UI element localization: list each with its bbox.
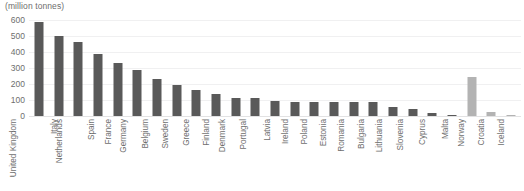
bar[interactable] <box>487 112 496 116</box>
x-axis-tick-label: Sweden <box>162 119 170 149</box>
x-axis-tick-label: Netherlands <box>56 119 64 163</box>
x-axis-tick-label: Malta <box>442 119 450 139</box>
bar[interactable] <box>54 36 63 116</box>
y-axis-tick-label: 400 <box>11 48 25 57</box>
bar[interactable] <box>448 115 457 116</box>
x-axis-tick-label: Finland <box>203 119 211 146</box>
bar-slot <box>206 20 226 116</box>
bar-slot <box>423 20 443 116</box>
bar-slot <box>285 20 305 116</box>
bar-slot <box>49 20 69 116</box>
bar-slot <box>501 20 521 116</box>
x-axis-tick-label: Belgium <box>142 119 150 149</box>
bar-slot <box>88 20 108 116</box>
x-axis-tick-label: Poland <box>302 119 310 145</box>
x-axis-tick-label: United Kingdom <box>10 119 18 177</box>
bar[interactable] <box>74 42 83 116</box>
bar-slot <box>245 20 265 116</box>
bar[interactable] <box>369 102 378 116</box>
x-axis-tick-label: Germany <box>120 119 128 153</box>
bar[interactable] <box>389 107 398 116</box>
bar-slot <box>442 20 462 116</box>
bar[interactable] <box>270 101 279 116</box>
bar-slot <box>167 20 187 116</box>
bar-slot <box>344 20 364 116</box>
bar-slot <box>29 20 49 116</box>
bar[interactable] <box>133 70 142 116</box>
bar[interactable] <box>211 94 220 116</box>
x-axis-tick-label: Spain <box>87 119 95 140</box>
y-axis-tick-label: 600 <box>11 16 25 25</box>
bar[interactable] <box>290 102 299 116</box>
x-axis-tick-label: Greece <box>183 119 191 146</box>
x-axis-tick-label: Croatia <box>478 119 486 145</box>
bar[interactable] <box>192 90 201 116</box>
x-axis-tick-label: Iceland <box>498 119 506 145</box>
bar-slot <box>186 20 206 116</box>
category-label-slot: Netherlands <box>68 117 88 191</box>
x-axis-tick-label: Slovenia <box>397 119 405 150</box>
x-axis-tick-label: Norway <box>458 119 466 147</box>
bar[interactable] <box>251 98 260 116</box>
bar[interactable] <box>34 22 43 116</box>
y-axis-tick-label: 0 <box>20 112 25 121</box>
category-label-slot: Iceland <box>501 117 521 191</box>
bar-slot <box>147 20 167 116</box>
bar[interactable] <box>152 79 161 116</box>
bar-slot <box>324 20 344 116</box>
x-axis-tick-label: Estonia <box>320 119 328 146</box>
chart-unit-title: (million tonnes) <box>5 1 64 11</box>
bar[interactable] <box>231 98 240 116</box>
bar[interactable] <box>93 54 102 116</box>
category-label-slot: United Kingdom <box>29 117 49 191</box>
bar[interactable] <box>349 102 358 116</box>
x-axis-tick-label: Cyprus <box>419 119 427 145</box>
x-axis-tick-label: Ireland <box>282 119 290 144</box>
bar-slot <box>403 20 423 116</box>
bar-slot <box>305 20 325 116</box>
x-axis-tick-label: Lithuania <box>376 119 384 152</box>
y-axis-tick-label: 300 <box>11 64 25 73</box>
bar[interactable] <box>507 115 516 116</box>
bar-slot <box>108 20 128 116</box>
bar[interactable] <box>113 63 122 116</box>
category-label-slot: Cyprus <box>423 117 443 191</box>
bar[interactable] <box>172 85 181 116</box>
bar-slot <box>364 20 384 116</box>
bar[interactable] <box>310 102 319 116</box>
plot-area: 0100200300400500600 <box>29 20 521 116</box>
bar-series <box>29 20 521 116</box>
bar[interactable] <box>428 113 437 116</box>
bar-slot <box>127 20 147 116</box>
bar-slot <box>383 20 403 116</box>
x-axis-tick-label: Romania <box>337 119 345 152</box>
bar-slot <box>482 20 502 116</box>
x-axis-tick-label: France <box>105 119 113 144</box>
bar-chart: (million tonnes) 0100200300400500600 Uni… <box>0 0 524 191</box>
y-axis-tick-label: 100 <box>11 96 25 105</box>
bar-slot <box>68 20 88 116</box>
y-axis-tick-label: 500 <box>11 32 25 41</box>
x-axis-tick-label: Bulgaria <box>358 119 366 149</box>
bar-slot <box>265 20 285 116</box>
bar[interactable] <box>467 77 476 116</box>
x-axis-tick-label: Denmark <box>219 119 227 152</box>
x-axis-tick-label: Portugal <box>240 119 248 150</box>
bar[interactable] <box>408 109 417 116</box>
bar-slot <box>462 20 482 116</box>
y-axis-tick-label: 200 <box>11 80 25 89</box>
x-axis-category-labels: United KingdomItalyNetherlandsSpainFranc… <box>29 117 521 191</box>
bar-slot <box>226 20 246 116</box>
bar[interactable] <box>330 102 339 116</box>
x-axis-tick-label: Latvia <box>264 119 272 141</box>
